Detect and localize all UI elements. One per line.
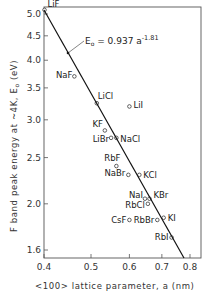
point-label: NaI	[129, 190, 143, 200]
y-tick-label: 2.0	[27, 199, 42, 209]
y-tick-label: 2.5	[27, 153, 41, 163]
x-axis-title: <100> lattice parameter, a (nm)	[35, 281, 194, 291]
point-label: NaF	[56, 70, 73, 80]
point-label: RbI	[155, 232, 169, 242]
y-tick-label: 1.6	[27, 245, 42, 255]
data-point	[73, 75, 77, 79]
x-tick-label: 0.4	[37, 262, 52, 272]
y-tick-label: 5.0	[27, 9, 42, 19]
x-tick-label: 0.6	[122, 262, 137, 272]
point-label: LiBr	[93, 134, 110, 144]
data-point	[128, 218, 132, 222]
point-label: LiI	[133, 100, 143, 110]
data-point	[127, 173, 131, 177]
y-tick-label: 4.0	[27, 55, 42, 65]
data-point	[128, 105, 132, 109]
fit-equation: Eo = 0.937 a-1.81	[85, 34, 159, 47]
point-label: LiCl	[98, 91, 113, 101]
point-label: KI	[168, 213, 176, 223]
f-band-chart: 0.40.50.60.70.81.62.02.53.03.54.04.55.0 …	[0, 0, 209, 295]
point-label: RbF	[104, 153, 120, 163]
point-label: KF	[92, 119, 103, 129]
data-point	[109, 136, 113, 140]
y-axis-title: F band peak energy at ~4K, Eo (eV)	[9, 60, 20, 232]
x-tick-label: 0.5	[84, 262, 98, 272]
y-tick-label: 3.5	[27, 83, 41, 93]
point-label: KBr	[153, 190, 168, 200]
data-point	[103, 129, 107, 133]
point-label: RbCl	[125, 200, 145, 210]
point-label: KCl	[143, 170, 156, 180]
point-label: RbBr	[134, 215, 155, 225]
point-label: LiF	[48, 0, 60, 9]
equation-leader	[68, 41, 84, 53]
y-tick-label: 4.5	[27, 31, 41, 41]
point-label: NaCl	[120, 134, 140, 144]
point-label: NaBr	[104, 168, 125, 178]
y-tick-label: 3.0	[27, 115, 42, 125]
data-point	[146, 202, 150, 206]
axis-ticks: 0.40.50.60.70.81.62.02.53.03.54.04.55.0	[27, 9, 198, 272]
x-tick-label: 0.8	[183, 262, 198, 272]
point-label: CsF	[111, 215, 126, 225]
data-point	[156, 218, 160, 222]
x-tick-label: 0.7	[155, 262, 169, 272]
